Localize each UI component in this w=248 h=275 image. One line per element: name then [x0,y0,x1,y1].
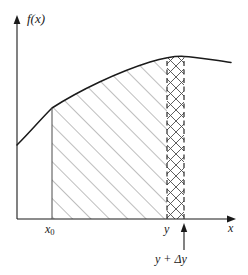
delta-y-pointer-arrow [181,223,187,250]
tick-label-y: y [164,223,169,235]
diagonal-hatched-area [40,40,185,230]
x-axis-label: x [228,222,233,234]
tick-label-x0-subscript: 0 [50,227,54,237]
tick-label-y-plus-delta-y: y + Δy [155,253,187,265]
y-axis-label: f(x) [27,12,45,25]
y-axis [14,15,21,219]
tick-label-x0: x0 [45,223,55,237]
diagram-canvas [0,0,248,275]
calculus-area-diagram: f(x) x0 y x y + Δy [0,0,248,275]
